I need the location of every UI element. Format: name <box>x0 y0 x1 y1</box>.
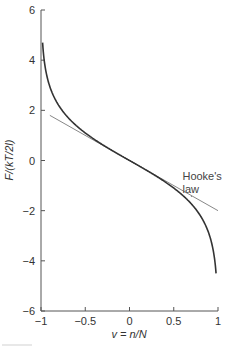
chart: −6−4−20246−1−0.500.51 Hooke'slaw v = n/N… <box>0 0 227 350</box>
y-tick-label: 0 <box>29 155 35 167</box>
x-tick-label: 0.5 <box>166 315 181 327</box>
annotation-text-line2: law <box>182 183 199 195</box>
y-axis-label: F/(kT/2l) <box>3 139 15 180</box>
plot-area <box>43 43 218 274</box>
y-tick-label: −4 <box>22 255 35 267</box>
axes: −6−4−20246−1−0.500.51 <box>22 4 221 327</box>
force-curve <box>43 43 216 274</box>
annotation-hookes-law: Hooke'slaw <box>182 170 222 197</box>
y-tick-label: 4 <box>29 54 35 66</box>
x-tick-label: −1 <box>35 315 48 327</box>
x-tick-label: 0 <box>126 315 132 327</box>
x-axis-label: v = n/N <box>111 328 146 340</box>
y-tick-label: 2 <box>29 104 35 116</box>
y-tick-label: 6 <box>29 4 35 16</box>
y-tick-label: −6 <box>22 305 35 317</box>
annotation-text-line1: Hooke's <box>182 170 222 182</box>
footer-divider <box>2 344 32 346</box>
x-tick-label: 1 <box>215 315 221 327</box>
y-tick-label: −2 <box>22 205 35 217</box>
x-tick-label: −0.5 <box>74 315 96 327</box>
